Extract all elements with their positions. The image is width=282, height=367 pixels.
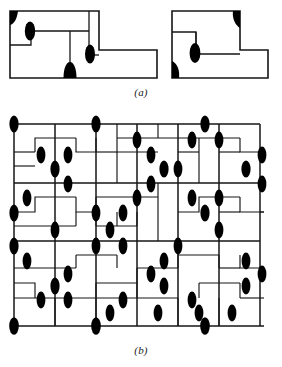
node-ellipse bbox=[50, 277, 59, 294]
node-ellipse bbox=[106, 305, 115, 322]
node-ellipse bbox=[23, 253, 32, 270]
node-ellipse bbox=[200, 115, 209, 132]
node-ellipse bbox=[51, 222, 60, 239]
node-ellipse bbox=[160, 253, 169, 270]
node-ellipse bbox=[159, 160, 168, 177]
node-ellipse bbox=[174, 238, 183, 255]
node-ellipse bbox=[64, 176, 73, 193]
node-ellipse bbox=[119, 238, 128, 255]
node-half-ellipse bbox=[64, 62, 77, 78]
left-tile-outline bbox=[10, 11, 157, 78]
node-ellipse bbox=[9, 317, 19, 335]
node-ellipse bbox=[200, 204, 209, 221]
node-ellipse bbox=[119, 205, 128, 222]
node-ellipse bbox=[258, 147, 267, 164]
node-ellipse bbox=[241, 160, 250, 177]
node-ellipse bbox=[190, 43, 201, 63]
node-ellipse bbox=[147, 147, 156, 164]
panel-a: (a) bbox=[0, 0, 282, 108]
node-ellipse bbox=[85, 45, 95, 64]
node-ellipse bbox=[92, 205, 101, 222]
node-ellipse bbox=[258, 266, 267, 283]
node-ellipse bbox=[64, 147, 73, 164]
right-tile-partitions bbox=[172, 32, 240, 54]
right-tile-nodes bbox=[172, 11, 240, 78]
node-ellipse bbox=[242, 278, 251, 295]
node-ellipse bbox=[37, 147, 46, 164]
right-tile-outline bbox=[172, 11, 268, 78]
node-ellipse bbox=[119, 292, 128, 309]
node-ellipse bbox=[106, 222, 115, 239]
node-ellipse bbox=[188, 292, 197, 309]
node-ellipse bbox=[91, 115, 100, 132]
node-ellipse bbox=[242, 253, 251, 270]
panel-a-caption: (a) bbox=[0, 86, 282, 98]
lattice-nodes bbox=[9, 115, 266, 334]
node-ellipse bbox=[64, 266, 73, 283]
node-ellipse bbox=[215, 190, 224, 207]
node-ellipse bbox=[154, 305, 163, 322]
node-ellipse bbox=[147, 266, 156, 283]
node-ellipse bbox=[174, 161, 183, 178]
node-ellipse bbox=[9, 204, 18, 221]
left-tile-partitions bbox=[10, 11, 99, 78]
node-ellipse bbox=[160, 278, 169, 295]
node-ellipse bbox=[195, 305, 204, 322]
node-ellipse bbox=[258, 176, 267, 193]
node-ellipse bbox=[9, 115, 18, 132]
panel-b-caption: (b) bbox=[0, 344, 282, 356]
node-ellipse bbox=[147, 176, 156, 193]
node-ellipse bbox=[188, 190, 197, 207]
node-ellipse bbox=[228, 305, 237, 322]
node-ellipse bbox=[25, 22, 35, 41]
node-ellipse bbox=[92, 238, 101, 255]
node-ellipse bbox=[215, 132, 224, 149]
node-ellipse bbox=[50, 160, 59, 177]
node-ellipse bbox=[37, 292, 46, 309]
panel-b-drawing bbox=[0, 108, 282, 367]
node-ellipse bbox=[188, 132, 197, 149]
node-corner-wedge bbox=[172, 61, 179, 78]
figure-root: (a) bbox=[0, 0, 282, 367]
node-ellipse bbox=[9, 237, 18, 254]
node-ellipse bbox=[215, 222, 224, 239]
panel-b: (b) bbox=[0, 108, 282, 367]
node-ellipse bbox=[23, 190, 32, 207]
node-ellipse bbox=[64, 292, 73, 309]
node-corner-wedge bbox=[10, 11, 18, 25]
node-ellipse bbox=[200, 317, 210, 335]
node-corner-wedge bbox=[233, 11, 240, 28]
node-ellipse bbox=[133, 132, 142, 149]
node-ellipse bbox=[91, 317, 101, 335]
node-ellipse bbox=[133, 190, 142, 207]
